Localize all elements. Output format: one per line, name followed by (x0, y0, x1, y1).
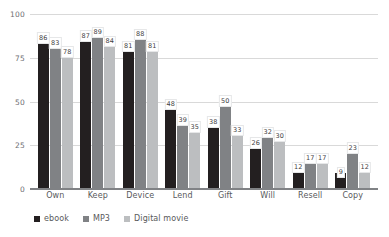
bar-gift-mp3: 50 (220, 14, 231, 189)
bar-rect (80, 37, 91, 189)
x-axis-label-keep: Keep (77, 191, 120, 200)
bar-will-mp3: 32 (262, 14, 273, 189)
bar-rect (147, 47, 158, 189)
bar-keep-ebook: 87 (80, 14, 91, 189)
bar-lend-digital-movie: 35 (189, 14, 200, 189)
bar-resell-digital-movie: 17 (317, 14, 328, 189)
bar-value-label: 35 (189, 121, 201, 133)
bar-resell-mp3: 17 (305, 14, 316, 189)
x-axis-label-copy: Copy (332, 191, 375, 200)
x-axis-label-device: Device (119, 191, 162, 200)
legend-label: Digital movie (134, 214, 188, 223)
bar-value-label: 89 (92, 27, 104, 39)
grouped-bar-chart: 0255075100 86837887898481888148393538503… (0, 0, 389, 237)
plot-area: 0255075100 86837887898481888148393538503… (30, 14, 378, 189)
bar-value-label: 12 (292, 162, 304, 174)
bar-keep-digital-movie: 84 (104, 14, 115, 189)
bar-rect (208, 123, 219, 190)
bar-value-label: 78 (61, 46, 73, 58)
bar-value-label: 81 (146, 41, 158, 53)
bar-value-label: 48 (165, 99, 177, 111)
bar-rect (104, 42, 115, 189)
legend-label: ebook (44, 214, 69, 223)
bar-rect (177, 121, 188, 189)
bar-value-label: 17 (316, 153, 328, 165)
bar-value-label: 81 (122, 41, 134, 53)
bar-own-mp3: 83 (50, 14, 61, 189)
bar-group-gift: 385033 (204, 14, 247, 189)
bar-value-label: 84 (104, 36, 116, 48)
bar-gift-ebook: 38 (208, 14, 219, 189)
legend-item-mp3[interactable]: MP3 (83, 214, 110, 223)
gridline-0: 0 (30, 189, 378, 190)
legend-item-digital-movie[interactable]: Digital movie (124, 214, 188, 223)
legend-swatch-icon (34, 216, 40, 222)
bar-rect (62, 53, 73, 190)
bar-own-digital-movie: 78 (62, 14, 73, 189)
bar-value-label: 30 (274, 130, 286, 142)
bar-copy-ebook: 9 (335, 14, 346, 189)
bar-rect (38, 39, 49, 190)
y-tick-label-0: 0 (20, 185, 25, 194)
bar-lend-mp3: 39 (177, 14, 188, 189)
legend-swatch-icon (83, 216, 89, 222)
bar-group-resell: 121717 (289, 14, 332, 189)
bar-value-label: 38 (207, 116, 219, 128)
y-tick-label-75: 75 (15, 53, 25, 62)
bar-rect (274, 137, 285, 190)
x-axis-label-gift: Gift (204, 191, 247, 200)
bar-own-ebook: 86 (38, 14, 49, 189)
bar-rect (220, 102, 231, 190)
bar-rect (165, 105, 176, 189)
bar-value-label: 26 (250, 137, 262, 149)
bar-gift-digital-movie: 33 (232, 14, 243, 189)
bar-rect (189, 128, 200, 189)
y-tick-label-25: 25 (15, 141, 25, 150)
x-axis-labels: OwnKeepDeviceLendGiftWillResellCopy (30, 191, 378, 200)
x-axis-line (30, 188, 378, 189)
bar-device-ebook: 81 (123, 14, 134, 189)
bar-rect (50, 44, 61, 189)
bar-group-device: 818881 (119, 14, 162, 189)
bar-value-label: 17 (304, 153, 316, 165)
bar-rect (232, 131, 243, 189)
x-axis-label-lend: Lend (162, 191, 205, 200)
bar-group-will: 263230 (247, 14, 290, 189)
bar-rect (92, 33, 103, 189)
bar-value-label: 83 (49, 37, 61, 49)
legend-label: MP3 (93, 214, 110, 223)
bar-rect (123, 47, 134, 189)
bar-value-label: 12 (359, 162, 371, 174)
x-axis-label-will: Will (247, 191, 290, 200)
bar-value-label: 32 (262, 127, 274, 139)
bar-rect (250, 144, 261, 190)
chart-legend: ebookMP3Digital movie (34, 214, 188, 223)
bar-lend-ebook: 48 (165, 14, 176, 189)
bar-groups: 8683788789848188814839353850332632301217… (30, 14, 378, 189)
bar-value-label: 33 (231, 125, 243, 137)
legend-swatch-icon (124, 216, 130, 222)
bar-copy-digital-movie: 12 (359, 14, 370, 189)
bar-value-label: 86 (37, 32, 49, 44)
bar-rect (347, 149, 358, 189)
bar-rect (262, 133, 273, 189)
bar-group-keep: 878984 (77, 14, 120, 189)
bar-device-digital-movie: 81 (147, 14, 158, 189)
bar-resell-ebook: 12 (293, 14, 304, 189)
legend-item-ebook[interactable]: ebook (34, 214, 69, 223)
bar-copy-mp3: 23 (347, 14, 358, 189)
bar-value-label: 87 (80, 30, 92, 42)
bar-group-copy: 92312 (332, 14, 375, 189)
bar-device-mp3: 88 (135, 14, 146, 189)
y-tick-label-100: 100 (10, 10, 25, 19)
bar-will-ebook: 26 (250, 14, 261, 189)
bar-keep-mp3: 89 (92, 14, 103, 189)
bar-value-label: 50 (219, 95, 231, 107)
bar-group-lend: 483935 (162, 14, 205, 189)
bar-group-own: 868378 (34, 14, 77, 189)
bar-rect (135, 35, 146, 189)
y-tick-label-50: 50 (15, 97, 25, 106)
bar-value-label: 39 (177, 114, 189, 126)
bar-value-label: 23 (347, 142, 359, 154)
x-axis-label-own: Own (34, 191, 77, 200)
